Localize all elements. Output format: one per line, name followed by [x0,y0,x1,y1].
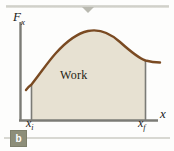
y-axis-label: Fx [13,9,25,27]
x-axis-label: x [160,106,166,122]
y-axis-subscript: x [21,17,25,27]
x-axis-symbol: x [160,106,166,121]
work-force-figure: Fx x xi xf Work b [0,0,174,151]
bottom-divider-rule [4,137,170,139]
x-tick-label-final: xf [138,116,146,132]
y-axis-symbol: F [13,9,21,24]
work-area-label: Work [60,68,88,83]
x-tick-label-initial: xi [26,116,34,132]
work-area-fill [32,30,146,120]
xf-subscript: f [143,123,145,132]
xi-subscript: i [31,123,33,132]
panel-letter-badge: b [10,130,27,147]
